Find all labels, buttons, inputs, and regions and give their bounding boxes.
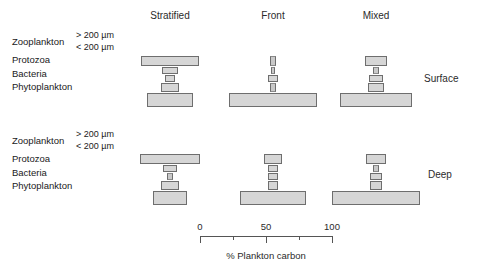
axis-tick-minor: [299, 236, 300, 240]
tier-bar: [270, 56, 275, 66]
tier-bar: [268, 75, 279, 82]
size-class-small-deep: < 200 µm: [76, 141, 114, 151]
tier-bar: [365, 56, 387, 66]
tier-bar: [153, 191, 187, 205]
tier-bar: [370, 173, 382, 180]
pyramid-surface-mixed: [296, 56, 456, 107]
tier-bar: [162, 67, 178, 74]
tier-bar: [140, 154, 201, 164]
axis-tick-label: 0: [197, 221, 202, 232]
tier-bar: [373, 165, 378, 172]
tier-bar: [167, 173, 172, 180]
tier-bar: [369, 75, 382, 82]
tier-bar: [370, 181, 382, 190]
axis-caption: % Plankton carbon: [226, 250, 306, 261]
tier-bar: [165, 75, 176, 82]
size-class-large: > 200 µm: [76, 30, 114, 40]
tier-bar: [161, 83, 178, 92]
tier-bar: [161, 181, 179, 190]
size-class-large-deep: > 200 µm: [76, 129, 114, 139]
axis-tick-label: 50: [261, 221, 272, 232]
tier-bar: [264, 154, 282, 164]
tier-bar: [141, 56, 199, 66]
tier-bar: [368, 83, 384, 92]
tier-bar: [268, 165, 277, 172]
tier-label-zooplankton-text-deep: Zooplankton: [12, 135, 64, 146]
tier-label-size-classes: > 200 µm < 200 µm: [76, 29, 114, 53]
plankton-carbon-figure: Stratified Front Mixed Surface Deep Zoop…: [0, 0, 484, 271]
tier-bar: [268, 181, 277, 190]
tier-bar: [373, 67, 380, 74]
tier-label-size-classes-deep: > 200 µm < 200 µm: [76, 128, 114, 152]
column-title-mixed: Mixed: [363, 10, 390, 21]
tier-label-zooplankton-surface: Zooplankton > 200 µm < 200 µm: [12, 29, 142, 53]
pyramid-deep-mixed: [296, 154, 456, 205]
tier-bar: [271, 67, 275, 74]
axis-tick-label: 100: [324, 221, 340, 232]
tier-bar: [270, 83, 275, 92]
tier-bar: [163, 165, 178, 172]
column-title-stratified: Stratified: [150, 10, 189, 21]
axis-tick-major: [266, 236, 267, 243]
tier-bar: [340, 93, 413, 107]
tier-bar: [147, 93, 193, 107]
tier-bar: [332, 191, 419, 205]
size-class-small: < 200 µm: [76, 42, 114, 52]
tier-bar: [366, 154, 386, 164]
axis-tick-major: [200, 236, 201, 243]
tier-bar: [268, 173, 277, 180]
axis-tick-major: [332, 236, 333, 243]
column-title-front: Front: [261, 10, 284, 21]
tier-label-zooplankton-deep: Zooplankton > 200 µm < 200 µm: [12, 128, 142, 152]
tier-label-zooplankton-text: Zooplankton: [12, 36, 64, 47]
axis-tick-minor: [233, 236, 234, 240]
